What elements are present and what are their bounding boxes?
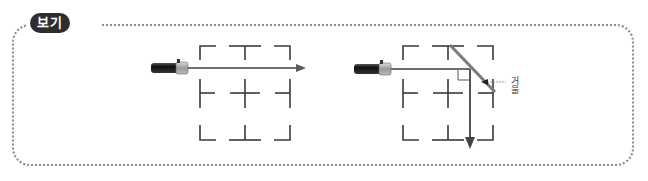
grid-left [200, 46, 290, 140]
mirror-label: 거울 [508, 76, 518, 94]
flashlight-icon-right [354, 60, 391, 75]
flashlight-icon-left [151, 59, 188, 74]
optics-diagram [0, 0, 648, 181]
light-beam-left [188, 64, 306, 72]
grid-right [403, 46, 493, 140]
right-angle-marker [458, 69, 470, 80]
